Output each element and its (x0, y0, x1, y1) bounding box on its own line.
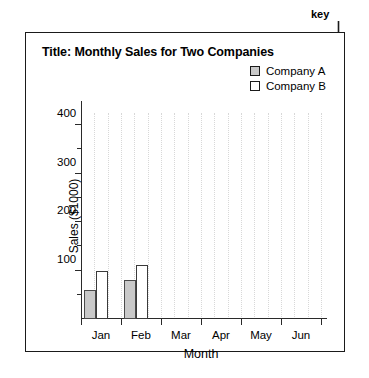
x-tick (81, 318, 82, 325)
x-tick-label: May (250, 329, 272, 341)
y-axis-title: Sales ($1000) (67, 179, 81, 254)
legend-label-company-b: Company B (266, 80, 326, 92)
plot-area: 100200300400 JanFebMarAprMayJun Sales ($… (81, 113, 321, 319)
gridline (241, 113, 243, 319)
bar-company-b-feb (136, 265, 148, 319)
gridline (268, 113, 270, 319)
gridline (228, 113, 230, 319)
bar-company-a-feb (124, 280, 136, 319)
y-tick-minor (77, 148, 82, 149)
x-tick-label: Jun (292, 329, 311, 341)
legend-entry-company-a: Company A (250, 65, 326, 77)
y-tick-label: 400 (57, 107, 76, 119)
gridline (121, 113, 123, 319)
y-tick-major (75, 270, 82, 271)
gridline (174, 113, 176, 319)
gridline (201, 113, 203, 319)
y-tick-label: 100 (57, 253, 76, 265)
x-tick (241, 318, 242, 325)
gridline (254, 113, 256, 319)
gridline (188, 113, 190, 319)
gridline (214, 113, 216, 319)
x-tick-label: Mar (171, 329, 191, 341)
y-tick-major (75, 124, 82, 125)
x-axis-line (81, 318, 327, 319)
legend-swatch-icon-company-a (250, 66, 260, 76)
x-tick (121, 318, 122, 325)
y-tick-minor (77, 294, 82, 295)
y-tick-label: 300 (57, 156, 76, 168)
x-tick (321, 318, 322, 325)
gridline (281, 113, 283, 319)
gridline (321, 113, 323, 319)
legend-label-company-a: Company A (266, 65, 325, 77)
x-tick (281, 318, 282, 325)
chart-figure: Title: Monthly Sales for Two Companies C… (25, 32, 345, 352)
gridline (161, 113, 163, 319)
x-tick-label: Feb (131, 329, 151, 341)
x-tick (161, 318, 162, 325)
x-tick (201, 318, 202, 325)
chart-title: Title: Monthly Sales for Two Companies (42, 45, 274, 59)
bar-company-a-jan (84, 290, 96, 319)
x-axis-title: Month (184, 347, 219, 361)
x-tick-label: Apr (212, 329, 230, 341)
legend-entry-company-b: Company B (250, 80, 326, 92)
y-tick-major (75, 173, 82, 174)
legend-swatch-icon-company-b (250, 81, 260, 91)
key-annotation-label: key (311, 8, 329, 20)
gridline (294, 113, 296, 319)
chart-legend: Company A Company B (250, 65, 326, 92)
page-top-band (0, 0, 369, 6)
x-tick-label: Jan (92, 329, 111, 341)
gridline (308, 113, 310, 319)
bar-company-b-jan (96, 271, 108, 319)
